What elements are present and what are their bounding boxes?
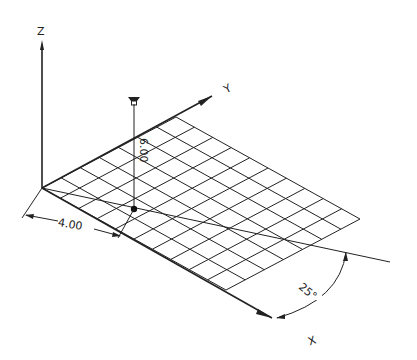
grid-line-x8 (189, 199, 323, 270)
y-axis-arrow-icon (198, 96, 212, 106)
y-axis-label: Y (221, 81, 234, 96)
xy-grid (42, 117, 360, 290)
grid-line-x10 (226, 219, 360, 290)
grid-line-y4 (119, 147, 303, 249)
dimension-height-label: 6.00 (137, 138, 150, 163)
viewpoint-marker-icon (128, 97, 140, 105)
grid-line-y7 (176, 117, 360, 219)
grid-line-x9 (208, 209, 342, 280)
x-axis-label: X (306, 333, 318, 348)
x-axis (42, 188, 272, 318)
x-axis-arrow-icon (256, 309, 272, 318)
grid-line-y2 (80, 168, 264, 270)
y-axis (42, 96, 212, 188)
grid-line-x3 (97, 148, 231, 219)
grid-line-x1 (60, 127, 194, 198)
grid-line-x6 (152, 178, 286, 249)
grid-line-y6 (157, 127, 341, 229)
dimension-horizontal-label: 4.00 (57, 216, 83, 233)
grid-line-y5 (138, 137, 322, 239)
sight-line (42, 188, 390, 262)
grid-line-x5 (134, 168, 268, 239)
viewpoint-diagram: Z Y X 4.00 6.00 (0, 0, 417, 360)
grid-line-y3 (99, 158, 283, 260)
z-axis-arrow-icon (40, 40, 44, 50)
drawing-canvas: Z Y X 4.00 6.00 (0, 0, 417, 360)
z-axis-label: Z (37, 25, 45, 38)
grid-line-x7 (171, 188, 305, 259)
grid-line-y1 (61, 178, 245, 280)
